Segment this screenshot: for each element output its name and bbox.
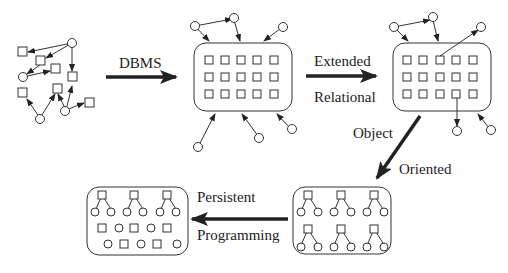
label-dbms: DBMS — [119, 56, 162, 71]
stage-object-oriented — [293, 187, 391, 254]
label-persistent: Persistent — [197, 190, 255, 205]
label-oriented: Oriented — [399, 162, 451, 177]
stage-extended-relational — [390, 13, 496, 136]
stage-scattered-objects — [18, 39, 94, 124]
label-programming: Programming — [197, 228, 280, 243]
stage-persistent-programming — [87, 187, 188, 255]
label-extended: Extended — [314, 54, 371, 69]
label-object: Object — [353, 126, 393, 141]
stage-dbms — [191, 14, 297, 152]
label-relational: Relational — [314, 90, 376, 105]
database-evolution-diagram: DBMS Extended Relational Object Oriented… — [0, 0, 508, 273]
